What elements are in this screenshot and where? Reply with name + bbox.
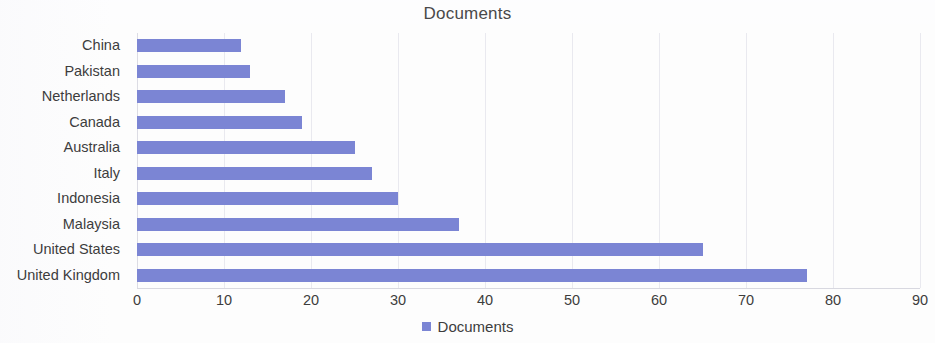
y-axis-label-netherlands: Netherlands [42, 84, 120, 110]
y-axis-label-canada: Canada [69, 110, 120, 136]
plot-area [137, 33, 920, 288]
x-tick-label-80: 80 [825, 292, 841, 308]
y-axis-label-united-kingdom: United Kingdom [17, 263, 120, 289]
x-tick-label-10: 10 [216, 292, 232, 308]
bar-china[interactable] [137, 39, 241, 52]
y-axis-category-labels: ChinaPakistanNetherlandsCanadaAustraliaI… [0, 33, 128, 288]
bar-pakistan[interactable] [137, 65, 250, 78]
x-axis-tick-labels: 0102030405060708090 [0, 292, 935, 318]
legend-label-documents: Documents [438, 318, 514, 335]
bar-row [137, 84, 920, 110]
y-axis-label-pakistan: Pakistan [64, 59, 120, 85]
bar-row [137, 59, 920, 85]
bar-row [137, 33, 920, 59]
bar-canada[interactable] [137, 116, 302, 129]
y-axis-label-australia: Australia [64, 135, 120, 161]
y-axis-label-united-states: United States [33, 237, 120, 263]
bar-row [137, 263, 920, 289]
chart-legend: Documents [0, 318, 935, 335]
y-axis-label-china: China [82, 33, 120, 59]
bar-row [137, 135, 920, 161]
x-tick-label-30: 30 [390, 292, 406, 308]
bar-row [137, 110, 920, 136]
x-tick-label-60: 60 [651, 292, 667, 308]
bar-indonesia[interactable] [137, 192, 398, 205]
x-tick-label-50: 50 [564, 292, 580, 308]
gridline-90 [920, 33, 921, 288]
x-tick-label-20: 20 [303, 292, 319, 308]
x-tick-label-90: 90 [912, 292, 928, 308]
bar-row [137, 186, 920, 212]
bar-united-states[interactable] [137, 243, 703, 256]
y-axis-label-malaysia: Malaysia [63, 212, 120, 238]
bar-row [137, 161, 920, 187]
x-tick-label-40: 40 [477, 292, 493, 308]
bar-italy[interactable] [137, 167, 372, 180]
bar-united-kingdom[interactable] [137, 269, 807, 282]
bar-row [137, 237, 920, 263]
x-tick-label-0: 0 [133, 292, 141, 308]
legend-swatch-documents [422, 322, 431, 331]
chart-title: Documents [0, 4, 935, 24]
bar-australia[interactable] [137, 141, 355, 154]
bar-row [137, 212, 920, 238]
y-axis-label-italy: Italy [93, 161, 120, 187]
documents-bar-chart: Documents ChinaPakistanNetherlandsCanada… [0, 0, 935, 343]
bar-malaysia[interactable] [137, 218, 459, 231]
x-axis-line [137, 288, 920, 289]
x-tick-label-70: 70 [738, 292, 754, 308]
y-axis-label-indonesia: Indonesia [57, 186, 120, 212]
bar-netherlands[interactable] [137, 90, 285, 103]
